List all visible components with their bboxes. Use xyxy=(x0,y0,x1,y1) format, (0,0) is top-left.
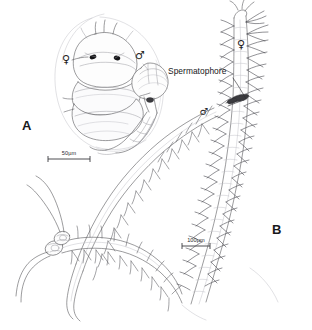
female-symbol-a: ♀ xyxy=(62,53,70,66)
male-symbol-a: ♂ xyxy=(135,49,145,62)
scale-bar-a-label: 50µm xyxy=(62,150,77,156)
panel-letter-a: A xyxy=(22,118,32,133)
canvas-background xyxy=(0,0,312,330)
male-symbol-b: ♂ xyxy=(200,106,209,117)
female-symbol-b: ♀ xyxy=(237,38,245,51)
scale-bar-b-label: 100µm xyxy=(187,237,205,243)
spermatophore-label: Spermatophore xyxy=(168,66,227,76)
figure-canvas: ♀ ♂ A 50µm xyxy=(0,0,312,330)
panel-letter-b: B xyxy=(272,222,282,237)
attachment-point-a xyxy=(146,98,153,103)
cropped-caption-strip xyxy=(0,321,312,330)
figure-plate: ♀ ♂ A 50µm xyxy=(0,0,312,330)
